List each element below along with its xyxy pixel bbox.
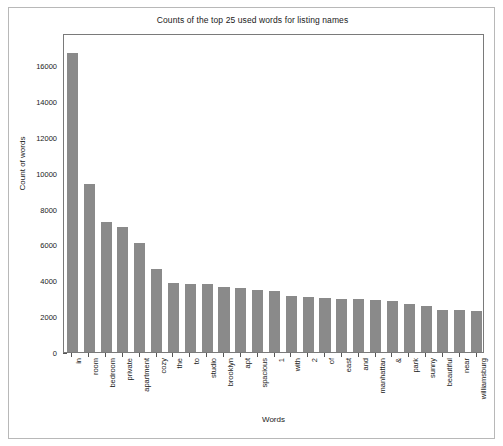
y-tick-label: 2000	[40, 313, 57, 322]
x-tick-label-text: spacious	[260, 358, 269, 388]
x-tick-mark	[391, 353, 392, 357]
chart-title: Counts of the top 25 used words for list…	[9, 15, 496, 25]
figure-panel: Counts of the top 25 used words for list…	[8, 7, 495, 439]
x-tick-label: sunny	[428, 358, 437, 378]
x-tick-mark	[442, 353, 443, 357]
x-tick-mark	[476, 353, 477, 357]
x-tick-label: beautiful	[445, 358, 454, 386]
bar	[471, 311, 482, 352]
x-tick-mark	[240, 353, 241, 357]
x-tick-mark	[206, 353, 207, 357]
bar	[387, 301, 398, 352]
x-tick-label: and	[361, 358, 370, 371]
plot-frame	[63, 34, 484, 353]
x-tick-label: apartment	[142, 358, 151, 392]
bar	[437, 310, 448, 352]
bar	[151, 269, 162, 352]
x-tick-label: private	[125, 358, 134, 381]
y-tick-label: 0	[53, 349, 57, 358]
x-tick-label-text: with	[293, 358, 302, 371]
x-tick-label: east	[344, 358, 353, 372]
x-tick-label: the	[175, 358, 184, 368]
y-tick-label: 14000	[36, 98, 57, 107]
x-tick-label-text: park	[411, 358, 420, 373]
x-tick-label: to	[192, 358, 201, 364]
x-tick-label: near	[462, 358, 471, 373]
x-tick-label-text: the	[175, 358, 184, 368]
x-tick-label: room	[91, 358, 100, 375]
y-tick-label: 8000	[40, 205, 57, 214]
x-tick-mark	[189, 353, 190, 357]
x-tick-label: with	[293, 358, 302, 371]
x-tick-mark	[290, 353, 291, 357]
x-tick-mark	[307, 353, 308, 357]
x-tick-mark	[88, 353, 89, 357]
x-tick-mark	[324, 353, 325, 357]
x-tick-mark	[172, 353, 173, 357]
x-tick-mark	[122, 353, 123, 357]
x-tick-label-text: 2	[310, 358, 319, 362]
bar	[421, 306, 432, 352]
bar	[67, 53, 78, 352]
bar	[319, 298, 330, 352]
x-tick-label: &	[394, 358, 403, 363]
x-tick-mark	[375, 353, 376, 357]
x-tick-label: brooklyn	[226, 358, 235, 386]
x-tick-label-text: studio	[209, 358, 218, 378]
x-tick-label-text: and	[361, 358, 370, 371]
bar	[454, 310, 465, 352]
bar	[404, 304, 415, 352]
x-tick-mark	[257, 353, 258, 357]
x-tick-mark	[105, 353, 106, 357]
x-tick-label-text: east	[344, 358, 353, 372]
x-tick-label: studio	[209, 358, 218, 378]
x-tick-label-text: 1	[277, 358, 286, 362]
x-tick-label-text: apt	[243, 358, 252, 368]
x-tick-label-text: sunny	[428, 358, 437, 378]
x-tick-label-text: beautiful	[445, 358, 454, 386]
x-tick-label: in	[74, 358, 83, 364]
x-tick-mark	[223, 353, 224, 357]
x-tick-label: 1	[277, 358, 286, 362]
y-axis-tick-labels: 0200040006000800010000120001400016000	[9, 34, 57, 353]
x-tick-label: 2	[310, 358, 319, 362]
x-tick-label-text: apartment	[142, 358, 151, 392]
bar	[101, 222, 112, 352]
x-tick-label-text: cozy	[159, 358, 168, 373]
x-tick-label-text: bedroom	[108, 358, 117, 388]
bar	[84, 184, 95, 352]
bar	[269, 291, 280, 352]
x-tick-mark	[459, 353, 460, 357]
y-tick-label: 12000	[36, 133, 57, 142]
x-tick-label: cozy	[159, 358, 168, 373]
bar	[134, 243, 145, 352]
x-tick-label: manhattan	[378, 358, 387, 393]
x-tick-mark	[71, 353, 72, 357]
x-axis-label: Words	[63, 415, 484, 424]
y-tick-label: 4000	[40, 277, 57, 286]
bar	[370, 300, 381, 352]
y-tick-label: 16000	[36, 62, 57, 71]
x-tick-mark	[341, 353, 342, 357]
x-tick-label-text: room	[91, 358, 100, 375]
bar	[353, 299, 364, 352]
x-tick-label: bedroom	[108, 358, 117, 388]
x-tick-label-text: to	[192, 358, 201, 364]
bar	[336, 299, 347, 352]
x-tick-label-text: williamsburg	[479, 358, 488, 399]
x-tick-label: of	[327, 358, 336, 364]
bar	[168, 283, 179, 352]
x-tick-mark	[156, 353, 157, 357]
bar	[202, 284, 213, 352]
x-tick-label-text: near	[462, 358, 471, 373]
bar	[185, 284, 196, 352]
x-tick-label-text: manhattan	[378, 358, 387, 393]
x-tick-mark	[139, 353, 140, 357]
bar	[286, 296, 297, 352]
bars-container	[64, 35, 483, 352]
x-tick-label-text: brooklyn	[226, 358, 235, 386]
x-tick-label-text: in	[74, 358, 83, 364]
x-tick-mark	[358, 353, 359, 357]
bar	[218, 287, 229, 352]
x-tick-label: williamsburg	[479, 358, 488, 399]
